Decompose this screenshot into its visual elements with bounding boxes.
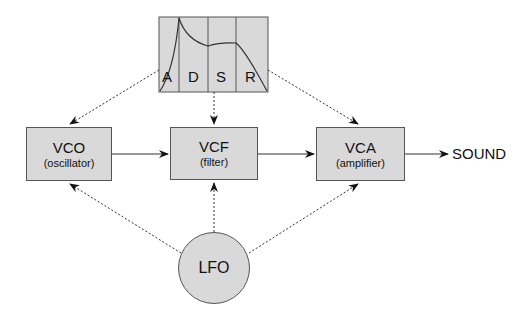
adsr-stage-r: R bbox=[245, 68, 256, 85]
arrow-adsr-vca bbox=[268, 70, 358, 124]
vcf-title: VCF bbox=[199, 138, 229, 155]
arrow-lfo-vca bbox=[249, 184, 358, 253]
lfo-label: LFO bbox=[198, 259, 229, 277]
vca-subtitle: (amplifier) bbox=[336, 156, 385, 170]
vco-title: VCO bbox=[53, 139, 86, 156]
vcf-box: VCF (filter) bbox=[170, 127, 258, 180]
lfo-circle: LFO bbox=[178, 232, 250, 304]
arrow-lfo-vco bbox=[70, 184, 181, 253]
sound-output-label: SOUND bbox=[452, 145, 506, 162]
vca-title: VCA bbox=[345, 139, 376, 156]
adsr-stage-a: A bbox=[162, 68, 172, 85]
vco-box: VCO (oscillator) bbox=[26, 127, 112, 181]
arrow-adsr-vco bbox=[70, 70, 159, 124]
vco-subtitle: (oscillator) bbox=[44, 156, 95, 170]
vca-box: VCA (amplifier) bbox=[316, 127, 405, 181]
adsr-stage-d: D bbox=[188, 68, 199, 85]
vcf-subtitle: (filter) bbox=[200, 155, 228, 169]
adsr-stage-s: S bbox=[216, 68, 226, 85]
